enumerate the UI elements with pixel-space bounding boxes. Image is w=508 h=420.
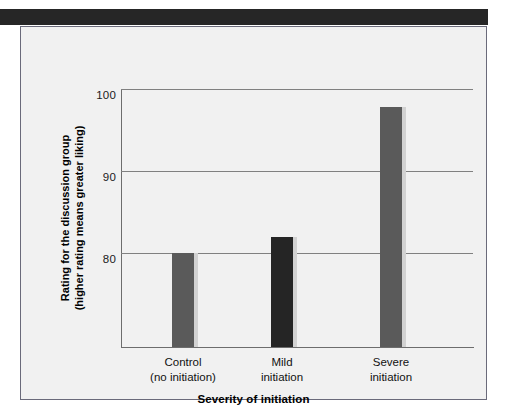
x-axis-title: Severity of initiation [21, 393, 486, 405]
x-category-label-mild: Mild initiation [261, 355, 303, 384]
y-tick-text: 90 [103, 171, 116, 183]
gridline-90 [121, 171, 473, 172]
figure-panel: Rating for the discussion group (higher … [20, 26, 487, 400]
gridline-100 [121, 89, 473, 90]
x-axis-line [121, 347, 474, 348]
x-category-line-2: initiation [261, 370, 303, 385]
bar-fill [172, 253, 194, 347]
x-category-line-1: Control [150, 355, 216, 370]
x-category-line-2: initiation [370, 370, 412, 385]
bar-fill [271, 237, 293, 347]
bar-fill [380, 107, 402, 347]
figure-page: Rating for the discussion group (higher … [0, 0, 508, 420]
x-category-label-control: Control (no initiation) [150, 355, 216, 384]
y-axis-title-line-2: (higher rating means greater liking) [72, 126, 86, 311]
bar-mild [271, 237, 293, 347]
bar-shadow [402, 107, 406, 347]
x-category-line-2: (no initiation) [150, 370, 216, 385]
header-band [0, 9, 488, 25]
bar-severe [380, 107, 402, 347]
bar-shadow [194, 253, 198, 347]
x-category-label-severe: Severe initiation [370, 355, 412, 384]
x-category-line-1: Severe [370, 355, 412, 370]
y-tick-text: 80 [103, 253, 116, 265]
y-axis-title-line-1: Rating for the discussion group [58, 126, 72, 311]
y-tick-text: 100 [96, 89, 116, 101]
y-axis-title: Rating for the discussion group (higher … [57, 89, 87, 347]
bar-shadow [293, 237, 297, 347]
bar-control [172, 253, 194, 347]
plot-area [121, 89, 473, 347]
x-category-line-1: Mild [261, 355, 303, 370]
